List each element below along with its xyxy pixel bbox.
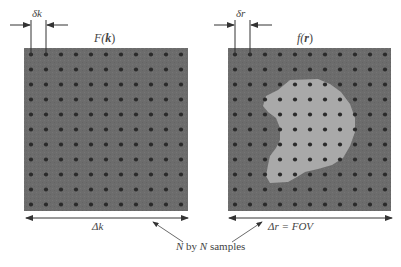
sample-dot	[104, 67, 108, 71]
sample-dot	[104, 202, 108, 206]
sample-dot	[149, 67, 153, 71]
sample-dot	[164, 142, 168, 146]
sample-dot	[338, 127, 342, 131]
sample-dot	[248, 187, 252, 191]
sample-dot	[263, 157, 267, 161]
sample-dot	[59, 157, 63, 161]
sample-dot	[338, 187, 342, 191]
sample-dot	[134, 112, 138, 116]
sample-dot	[353, 67, 357, 71]
sample-dot	[293, 127, 297, 131]
sample-dot	[179, 202, 183, 206]
sample-dot	[293, 82, 297, 86]
sample-dot	[179, 142, 183, 146]
sample-dot	[164, 202, 168, 206]
sample-dot	[89, 82, 93, 86]
sample-dot	[323, 157, 327, 161]
sample-dot	[368, 157, 372, 161]
sample-dot	[278, 67, 282, 71]
sample-dot	[338, 202, 342, 206]
image-space-panel	[228, 48, 391, 211]
sample-dot	[134, 172, 138, 176]
sample-dot	[104, 157, 108, 161]
sample-dot	[308, 202, 312, 206]
sample-dot	[278, 82, 282, 86]
sample-dot	[89, 67, 93, 71]
sample-dot	[368, 52, 372, 56]
sample-dot	[338, 112, 342, 116]
sample-dot	[29, 202, 33, 206]
sample-dot	[119, 52, 123, 56]
sample-dot	[383, 97, 387, 101]
sample-dot	[308, 67, 312, 71]
sample-dot	[368, 82, 372, 86]
sample-dot	[59, 142, 63, 146]
sample-dot	[89, 52, 93, 56]
sample-dot	[74, 67, 78, 71]
sample-dot	[383, 202, 387, 206]
sample-dot	[59, 82, 63, 86]
sample-dot	[278, 127, 282, 131]
sample-dot	[44, 82, 48, 86]
sample-dot	[278, 172, 282, 176]
sample-dot	[89, 127, 93, 131]
sample-dot	[59, 202, 63, 206]
sample-dot	[119, 202, 123, 206]
sample-dot	[74, 52, 78, 56]
sample-dot	[44, 112, 48, 116]
sample-dot	[248, 142, 252, 146]
sample-dot	[233, 97, 237, 101]
sample-dot	[29, 112, 33, 116]
sample-dot	[149, 127, 153, 131]
sample-dot	[104, 52, 108, 56]
sample-dot	[233, 157, 237, 161]
sample-dot	[353, 112, 357, 116]
sample-dot	[104, 142, 108, 146]
sample-dot	[74, 172, 78, 176]
sample-dot	[149, 142, 153, 146]
sample-dot	[383, 172, 387, 176]
sample-dot	[278, 157, 282, 161]
sample-dot	[263, 202, 267, 206]
sample-dot	[278, 187, 282, 191]
sample-dot	[308, 112, 312, 116]
sample-dot	[149, 172, 153, 176]
sample-dot	[263, 67, 267, 71]
sample-dot	[164, 127, 168, 131]
sample-dot	[293, 112, 297, 116]
sample-dot	[59, 127, 63, 131]
sample-dot	[263, 82, 267, 86]
sample-dot	[134, 202, 138, 206]
sample-dot	[293, 67, 297, 71]
sample-dot	[179, 157, 183, 161]
sample-dot	[323, 172, 327, 176]
sample-dot	[29, 97, 33, 101]
sample-dot	[308, 82, 312, 86]
n-by-n-samples-label: N by N samples	[176, 240, 245, 252]
delta-k-small-label: δk	[32, 7, 42, 19]
delta-r-big-label: Δr = FOV	[268, 220, 313, 232]
sample-dot	[263, 127, 267, 131]
sample-dot	[383, 127, 387, 131]
sample-dot	[293, 157, 297, 161]
sample-dot	[308, 142, 312, 146]
sample-dot	[248, 157, 252, 161]
sample-dot	[29, 127, 33, 131]
sample-dot	[164, 172, 168, 176]
sample-dot	[44, 202, 48, 206]
sample-dot	[293, 202, 297, 206]
k-space-panel	[24, 48, 188, 211]
sample-dot	[59, 97, 63, 101]
sample-dot	[383, 187, 387, 191]
sample-dot	[278, 112, 282, 116]
sample-dot	[119, 82, 123, 86]
sample-dot	[263, 97, 267, 101]
sample-dot	[29, 187, 33, 191]
sample-dot	[338, 142, 342, 146]
sample-dot	[44, 157, 48, 161]
sample-dot	[44, 187, 48, 191]
sample-dot	[179, 127, 183, 131]
sample-dot	[134, 67, 138, 71]
sample-dot	[89, 97, 93, 101]
sample-dot	[74, 112, 78, 116]
